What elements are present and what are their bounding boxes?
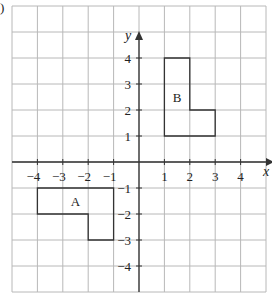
x-tick-label: 2 [187, 169, 194, 184]
x-axis-label: x [262, 164, 270, 179]
y-tick-label: 1 [125, 129, 132, 144]
y-tick-label: 4 [125, 51, 132, 66]
corner-mark: ) [0, 0, 4, 15]
coordinate-grid: ) −4−3−2−112344321−1−2−3−4xyAB [0, 0, 272, 301]
y-tick-label: −1 [117, 181, 131, 196]
x-tick-label: 4 [237, 169, 244, 184]
y-axis-label: y [123, 28, 132, 43]
x-tick-label: 3 [212, 169, 219, 184]
y-tick-label: −3 [117, 233, 131, 248]
y-tick-label: −4 [117, 259, 131, 274]
shape-b-label: B [173, 90, 182, 105]
x-tick-label: −3 [52, 169, 66, 184]
y-tick-label: 3 [125, 77, 132, 92]
x-tick-label: 1 [161, 169, 168, 184]
x-tick-label: −1 [103, 169, 117, 184]
y-tick-label: −2 [117, 207, 131, 222]
y-tick-label: 2 [125, 103, 132, 118]
axes [12, 31, 272, 292]
shape-a-label: A [71, 194, 81, 209]
x-tick-label: −2 [77, 169, 91, 184]
x-tick-label: −4 [26, 169, 40, 184]
